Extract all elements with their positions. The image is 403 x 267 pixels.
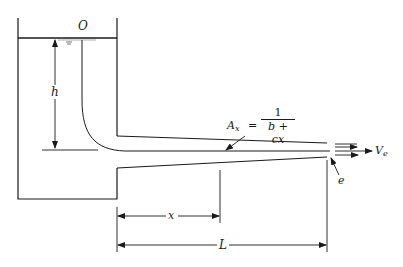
area-lhs: Ax — [227, 120, 239, 133]
area-leader-arrow — [226, 136, 245, 150]
nozzle-top-wall — [117, 136, 327, 143]
diagram-canvas — [0, 0, 403, 267]
equals-sign: = — [248, 120, 257, 131]
area-symbol: A — [227, 119, 235, 132]
tank-outline — [18, 18, 117, 199]
velocity-subscript: e — [383, 149, 388, 158]
area-subscript: x — [235, 124, 240, 133]
L-dim-label: L — [219, 239, 227, 251]
velocity-label: Ve — [375, 145, 388, 158]
area-numerator: 1 — [261, 106, 295, 120]
head-label: h — [51, 86, 59, 98]
velocity-symbol: V — [375, 144, 383, 157]
nozzle-bottom-wall — [117, 157, 327, 168]
x-dim-label: x — [168, 210, 174, 221]
origin-label: O — [78, 20, 88, 32]
area-denominator: b + cx — [261, 120, 295, 146]
area-fraction: 1 b + cx — [261, 106, 295, 146]
nozzle-diagram: O h Ax = 1 b + cx Ve e x L — [0, 0, 403, 267]
exit-leader-arrow — [331, 158, 339, 175]
exit-label: e — [338, 175, 345, 186]
